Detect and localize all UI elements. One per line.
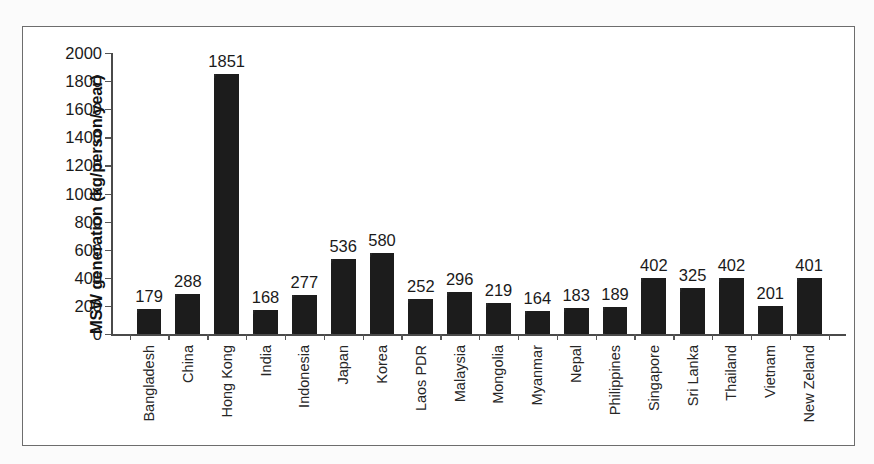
bar-value-label: 402 [640,256,668,275]
x-tick-mark [790,334,791,340]
x-tick-mark [130,334,131,340]
bar-value-label: 296 [446,270,474,289]
x-label-india: India [266,314,282,345]
y-tick-label: 800 [74,212,102,231]
y-tick-label: 600 [74,240,102,259]
y-tick-label: 200 [74,296,102,315]
x-label-singapore: Singapore [654,279,670,345]
y-tick-mark [105,250,111,251]
x-label-japan: Japan [343,305,359,345]
y-tick-mark [105,222,111,223]
y-tick-label: 1800 [65,72,102,91]
bar-value-label: 288 [174,272,202,291]
x-tick-mark [324,334,325,340]
x-tick-mark [207,334,208,340]
x-label-china: China [188,307,204,345]
y-tick-label: 1600 [65,100,102,119]
x-tick-mark [557,334,558,340]
y-tick-label: 1200 [65,156,102,175]
x-label-myanmar: Myanmar [537,285,553,345]
x-label-text: New Zeland [801,345,817,422]
y-tick-label: 2000 [65,44,102,63]
x-label-hong-kong: Hong Kong [227,272,243,345]
x-label-nepal: Nepal [576,307,592,345]
x-label-text: Mongolia [490,345,506,404]
y-tick-mark [105,306,111,307]
x-label-mongolia: Mongolia [498,286,514,345]
y-tick-label: 400 [74,268,102,287]
x-label-text: Nepal [568,345,584,383]
x-tick-mark [596,334,597,340]
x-tick-mark [168,334,169,340]
y-tick-mark [105,165,111,166]
scanned-page-background: MSW generation (kg/person/year) 02004006… [0,0,874,464]
x-label-text: China [180,345,196,383]
x-label-sri-lanka: Sri Lanka [693,284,709,345]
x-label-new-zeland: New Zeland [809,268,825,345]
y-tick-label: 1400 [65,128,102,147]
bar-value-label: 168 [252,288,280,307]
x-label-vietnam: Vietnam [770,292,786,345]
x-tick-mark [751,334,752,340]
y-tick-mark [105,278,111,279]
x-tick-mark [673,334,674,340]
x-tick-mark [440,334,441,340]
x-label-laos-pdr: Laos PDR [421,279,437,345]
x-label-text: Laos PDR [413,345,429,411]
x-label-text: Hong Kong [219,345,235,418]
x-label-text: Japan [335,345,351,385]
x-label-text: Malaysia [452,345,468,402]
x-label-text: Singapore [646,345,662,411]
x-label-text: India [258,345,274,376]
x-label-text: Vietnam [762,345,778,398]
x-tick-mark [246,334,247,340]
y-tick-mark [105,194,111,195]
x-tick-mark [401,334,402,340]
x-tick-mark [712,334,713,340]
x-label-bangladesh: Bangladesh [149,268,165,345]
bar-value-label: 402 [718,256,746,275]
x-label-malaysia: Malaysia [460,288,476,345]
figure-caption [0,452,874,464]
x-label-korea: Korea [382,306,398,345]
y-tick-label: 1000 [65,184,102,203]
y-tick-label: 0 [93,325,102,344]
x-tick-mark [285,334,286,340]
bar-value-label: 183 [562,286,590,305]
x-label-philippines: Philippines [615,275,631,345]
y-tick-mark [105,334,111,335]
y-tick-mark [105,137,111,138]
bar-value-label: 580 [368,231,396,250]
x-tick-mark [479,334,480,340]
plot-area: 0200400600800100012001400160018002000 17… [111,53,846,334]
y-axis-line [111,53,113,334]
x-label-text: Sri Lanka [685,345,701,406]
x-label-indonesia: Indonesia [304,282,320,345]
x-label-text: Indonesia [296,345,312,408]
y-tick-mark [105,53,111,54]
x-tick-mark [518,334,519,340]
chart-frame: MSW generation (kg/person/year) 02004006… [22,26,855,446]
bar-value-label: 1851 [208,52,245,71]
bar-value-label: 536 [329,237,357,256]
x-label-text: Myanmar [529,345,545,405]
x-tick-mark [829,334,830,340]
x-label-thailand: Thailand [731,289,747,345]
y-tick-mark [105,109,111,110]
x-label-text: Philippines [607,345,623,415]
x-tick-mark [634,334,635,340]
x-label-text: Korea [374,345,390,384]
x-tick-mark [363,334,364,340]
x-label-text: Thailand [723,345,739,401]
bar-value-label: 325 [679,266,707,285]
y-tick-mark [105,81,111,82]
x-label-text: Bangladesh [141,345,157,422]
